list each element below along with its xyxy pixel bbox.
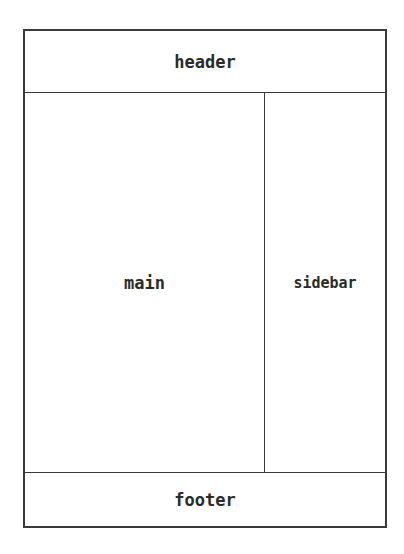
layout-diagram: header main sidebar footer bbox=[23, 29, 387, 528]
sidebar-label: sidebar bbox=[293, 274, 356, 292]
footer-region: footer bbox=[25, 472, 385, 526]
main-region: main bbox=[25, 93, 265, 472]
header-label: header bbox=[174, 52, 235, 72]
main-label: main bbox=[124, 273, 165, 293]
header-region: header bbox=[25, 31, 385, 93]
sidebar-region: sidebar bbox=[265, 93, 385, 472]
footer-label: footer bbox=[174, 490, 235, 510]
